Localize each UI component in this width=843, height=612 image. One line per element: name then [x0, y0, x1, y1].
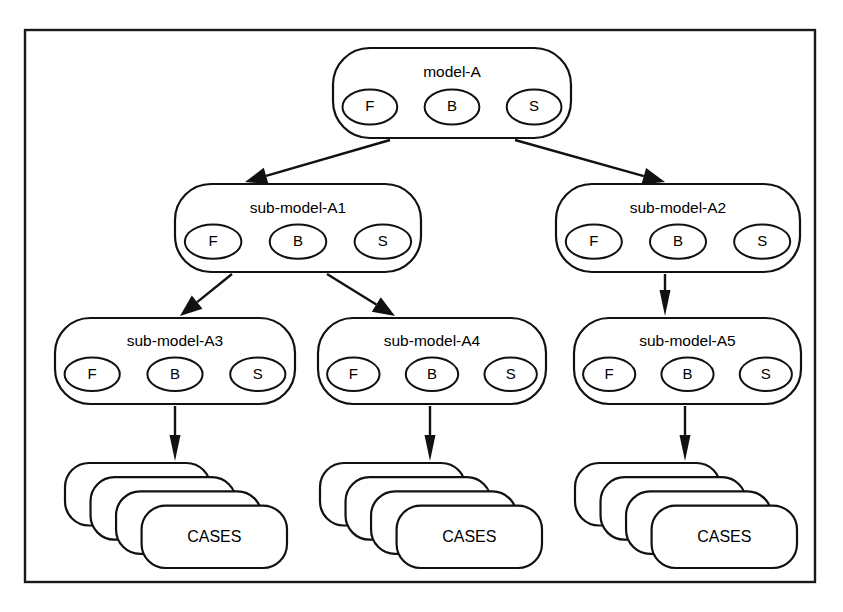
component-s[interactable]: S — [355, 224, 412, 258]
node-sub-model-A4[interactable]: sub-model-A4FBS — [318, 318, 546, 404]
component-label: B — [447, 97, 457, 114]
case-stack-label: CASES — [187, 528, 241, 545]
case-stack-1[interactable]: CASES — [65, 463, 287, 568]
component-label: F — [365, 97, 374, 114]
component-label: F — [349, 365, 358, 382]
arrow-head-icon — [372, 297, 395, 316]
component-label: F — [589, 232, 598, 249]
component-f[interactable]: F — [583, 358, 635, 392]
node-title: sub-model-A1 — [250, 199, 347, 216]
component-label: S — [761, 365, 771, 382]
case-stack-3[interactable]: CASES — [575, 463, 797, 568]
component-f[interactable]: F — [566, 224, 622, 258]
component-s[interactable]: S — [740, 358, 792, 392]
arrow-head-icon — [642, 168, 665, 184]
edge-modelA-to-A2 — [515, 140, 665, 184]
component-s[interactable]: S — [230, 358, 285, 392]
edge-line — [197, 274, 232, 302]
edge-line — [266, 140, 390, 176]
arrow-head-icon — [170, 435, 181, 461]
arrow-head-icon — [180, 296, 202, 316]
edge-A5-to-cases3 — [680, 406, 691, 461]
component-s[interactable]: S — [507, 89, 562, 124]
case-stack-label: CASES — [442, 528, 496, 545]
component-b[interactable]: B — [406, 358, 458, 392]
case-stack-layer: CASESCASESCASES — [65, 463, 797, 568]
component-f[interactable]: F — [343, 89, 398, 124]
edge-A1-to-A4 — [327, 274, 395, 316]
node-sub-model-A3[interactable]: sub-model-A3FBS — [55, 318, 295, 404]
component-f[interactable]: F — [327, 358, 379, 392]
arrow-head-icon — [660, 290, 671, 316]
node-title: sub-model-A3 — [127, 332, 224, 349]
component-label: F — [88, 365, 97, 382]
edge-A3-to-cases1 — [170, 406, 181, 461]
diagram-canvas: model-AFBSsub-model-A1FBSsub-model-A2FBS… — [0, 0, 843, 612]
node-title: model-A — [423, 63, 481, 80]
component-f[interactable]: F — [65, 358, 120, 392]
node-model-A[interactable]: model-AFBS — [333, 48, 571, 138]
component-f[interactable]: F — [185, 224, 242, 258]
edge-A2-to-A5 — [660, 274, 671, 316]
edge-line — [515, 140, 644, 176]
edge-line — [327, 274, 376, 304]
component-label: S — [253, 365, 263, 382]
arrow-head-icon — [245, 168, 268, 184]
edge-A4-to-cases2 — [425, 406, 436, 461]
component-label: B — [170, 365, 180, 382]
arrow-head-icon — [680, 435, 691, 461]
arrow-head-icon — [425, 435, 436, 461]
case-stack-label: CASES — [697, 528, 751, 545]
component-b[interactable]: B — [661, 358, 713, 392]
component-label: B — [427, 365, 437, 382]
edge-A1-to-A3 — [180, 274, 232, 316]
component-label: F — [605, 365, 614, 382]
node-sub-model-A2[interactable]: sub-model-A2FBS — [556, 184, 800, 272]
component-label: B — [673, 232, 683, 249]
component-label: B — [682, 365, 692, 382]
component-s[interactable]: S — [484, 358, 536, 392]
node-sub-model-A5[interactable]: sub-model-A5FBS — [574, 318, 801, 404]
component-b[interactable]: B — [147, 358, 202, 392]
component-label: S — [757, 232, 767, 249]
node-layer: model-AFBSsub-model-A1FBSsub-model-A2FBS… — [55, 48, 801, 404]
component-b[interactable]: B — [425, 89, 480, 124]
model-hierarchy-diagram: model-AFBSsub-model-A1FBSsub-model-A2FBS… — [0, 0, 843, 612]
node-title: sub-model-A4 — [384, 332, 481, 349]
case-stack-2[interactable]: CASES — [320, 463, 542, 568]
component-label: S — [378, 232, 388, 249]
component-label: B — [293, 232, 303, 249]
component-label: S — [506, 365, 516, 382]
node-sub-model-A1[interactable]: sub-model-A1FBS — [175, 184, 421, 272]
component-b[interactable]: B — [650, 224, 706, 258]
node-title: sub-model-A5 — [639, 332, 736, 349]
component-s[interactable]: S — [734, 224, 790, 258]
component-label: F — [209, 232, 218, 249]
edge-modelA-to-A1 — [245, 140, 390, 184]
node-title: sub-model-A2 — [630, 199, 727, 216]
component-b[interactable]: B — [270, 224, 327, 258]
component-label: S — [529, 97, 539, 114]
